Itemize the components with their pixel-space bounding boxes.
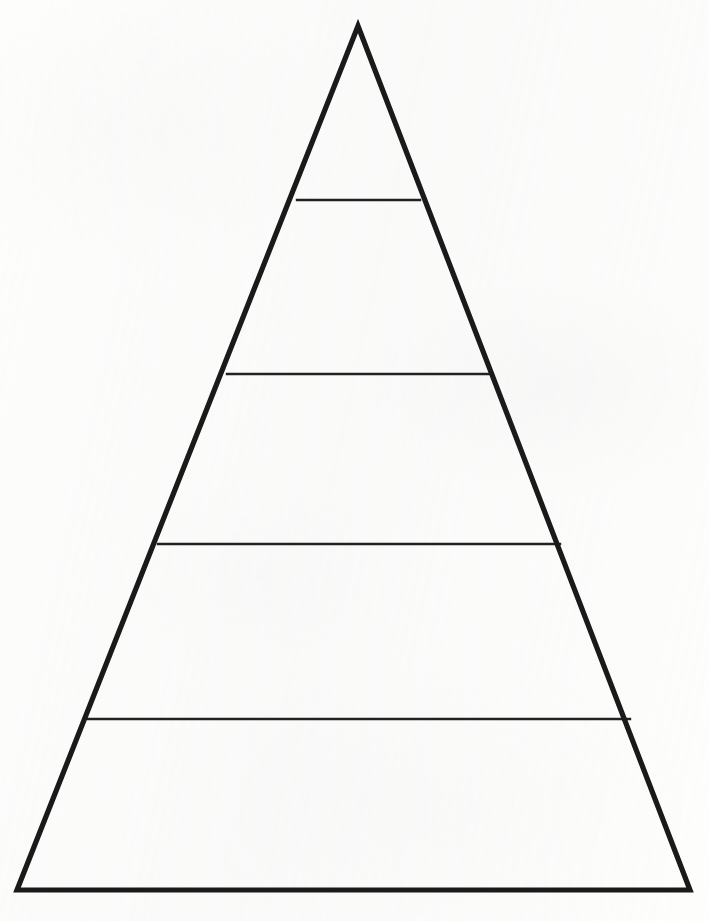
pyramid-tier-5[interactable] bbox=[17, 719, 690, 890]
pyramid-tier-2[interactable] bbox=[227, 200, 490, 374]
pyramid-tier-4[interactable] bbox=[88, 544, 630, 719]
page-canvas bbox=[0, 0, 709, 921]
pyramid-diagram bbox=[0, 0, 709, 921]
pyramid-tier-1[interactable] bbox=[297, 26, 420, 200]
